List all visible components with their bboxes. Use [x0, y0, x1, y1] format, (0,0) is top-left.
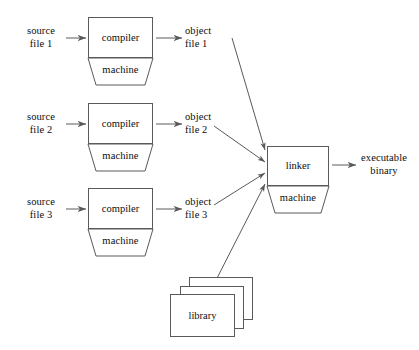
- compiler-unit-1[interactable]: compiler: [88, 17, 153, 58]
- source-file-2-label: source file 2: [16, 111, 66, 136]
- compiler-label-2: compiler: [89, 118, 152, 130]
- object-file-1-label: object file 1: [185, 25, 227, 50]
- compiler-label-3: compiler: [89, 203, 152, 215]
- linker-unit[interactable]: linker: [267, 146, 329, 186]
- linker-box: linker: [267, 146, 329, 186]
- compiler-box-3: compiler: [88, 188, 153, 229]
- library-box-front[interactable]: library: [170, 294, 235, 337]
- machine-label-linker: machine: [267, 192, 329, 205]
- compiler-box-1: compiler: [88, 17, 153, 58]
- compiler-label-1: compiler: [89, 32, 152, 44]
- object-file-2-label: object file 2: [185, 111, 227, 136]
- arrow-object-1-to-linker: [232, 38, 265, 150]
- source-file-3-label: source file 3: [16, 196, 66, 221]
- machine-label-3: machine: [88, 235, 153, 248]
- linker-label: linker: [268, 160, 328, 172]
- object-file-3-label: object file 3: [185, 196, 227, 221]
- library-label: library: [171, 310, 234, 322]
- compiler-unit-2[interactable]: compiler: [88, 103, 153, 144]
- compiler-unit-3[interactable]: compiler: [88, 188, 153, 229]
- executable-binary-label: executable binary: [352, 152, 416, 177]
- machine-label-1: machine: [88, 64, 153, 77]
- source-file-1-label: source file 1: [16, 25, 66, 50]
- machine-label-2: machine: [88, 150, 153, 163]
- diagram-canvas: compiler machine compiler machine compil…: [0, 0, 419, 350]
- compiler-box-2: compiler: [88, 103, 153, 144]
